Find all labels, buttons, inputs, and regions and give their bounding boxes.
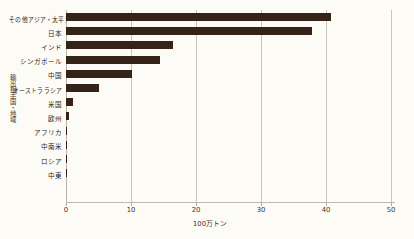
bar bbox=[66, 141, 67, 149]
x-axis-label: 100万トン bbox=[0, 218, 414, 228]
x-tick-label: 50 bbox=[379, 206, 403, 214]
x-tick-label: 30 bbox=[249, 206, 273, 214]
bar-row bbox=[66, 67, 391, 81]
bar bbox=[66, 169, 67, 177]
bar bbox=[66, 84, 99, 92]
bar bbox=[66, 56, 160, 64]
x-axis-line bbox=[66, 202, 395, 203]
bar-row bbox=[66, 53, 391, 67]
gridline-50 bbox=[391, 10, 392, 203]
category-axis-labels: その他アジア・太平洋日本インドシンガポール中国オーストララシア米国欧州アフリカ中… bbox=[14, 14, 64, 203]
bar bbox=[66, 13, 331, 21]
bar bbox=[66, 127, 67, 135]
category-label: 米国 bbox=[2, 101, 62, 109]
bar bbox=[66, 155, 67, 163]
bar bbox=[66, 41, 173, 49]
category-label: インド bbox=[2, 44, 62, 52]
category-label: 日本 bbox=[2, 30, 62, 38]
bar bbox=[66, 70, 132, 78]
x-tick-label: 0 bbox=[54, 206, 78, 214]
category-label: オーストララシア bbox=[9, 87, 62, 95]
bar-row bbox=[66, 10, 391, 24]
bar-row bbox=[66, 95, 391, 109]
bar-row bbox=[66, 38, 391, 52]
category-label: アフリカ bbox=[2, 129, 62, 137]
bar-chart: 輸出相手国・地域 その他アジア・太平洋日本インドシンガポール中国オーストララシア… bbox=[0, 0, 414, 239]
category-label: 欧州 bbox=[2, 115, 62, 123]
bar-row bbox=[66, 24, 391, 38]
x-tick-label: 20 bbox=[184, 206, 208, 214]
bar bbox=[66, 98, 73, 106]
category-label: その他アジア・太平洋 bbox=[9, 16, 62, 24]
bar-row bbox=[66, 124, 391, 138]
x-tick-label: 40 bbox=[314, 206, 338, 214]
bar-row bbox=[66, 138, 391, 152]
bar-row bbox=[66, 109, 391, 123]
category-label: 中南米 bbox=[2, 143, 62, 151]
category-label: ロシア bbox=[2, 158, 62, 166]
bar-row bbox=[66, 166, 391, 180]
category-label: 中国 bbox=[2, 72, 62, 80]
bar bbox=[66, 112, 69, 120]
bar-row bbox=[66, 152, 391, 166]
plot-area bbox=[66, 10, 391, 203]
bar-row bbox=[66, 81, 391, 95]
x-tick-label: 10 bbox=[119, 206, 143, 214]
category-label: シンガポール bbox=[2, 58, 62, 66]
x-axis-label-text: 100万トン bbox=[193, 218, 227, 228]
bar bbox=[66, 27, 312, 35]
category-label: 中東 bbox=[2, 172, 62, 180]
